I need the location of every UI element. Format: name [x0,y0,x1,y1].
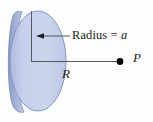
point-p-annotation-label: P [133,50,141,66]
radius-annotation-prefix: Radius = [72,28,121,42]
figure-canvas [0,0,153,122]
radius-annotation-label: Radius = a [72,28,127,43]
radius-annotation-variable: a [121,28,127,42]
field-point-marker [117,58,124,65]
distance-annotation-label: R [62,66,70,82]
physics-figure-disk-on-axis: Radius = a R P [0,0,153,122]
